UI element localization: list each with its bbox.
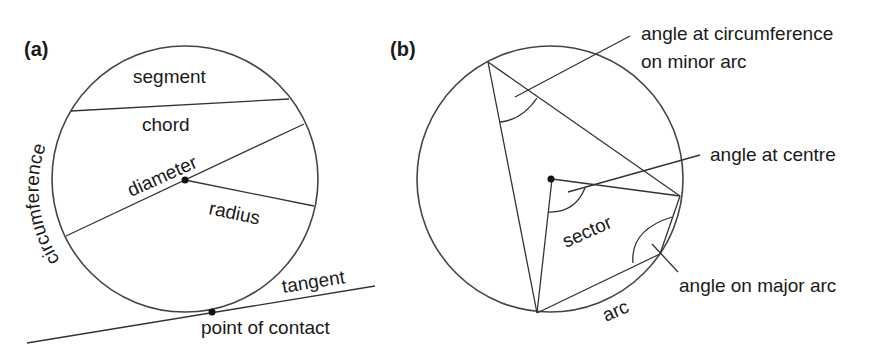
panel-a: (a) segment chord diameter radius circum… [21, 38, 375, 343]
contact-point [209, 309, 216, 316]
radius-line [185, 180, 314, 206]
angle-major-arc-label: angle on major arc [679, 275, 836, 296]
segment-label: segment [133, 66, 207, 87]
chord-d-right [660, 196, 680, 254]
angle-arc-circumference [500, 98, 537, 122]
centre-point-b [548, 176, 555, 183]
radius-to-bottom [537, 179, 552, 313]
sector-label: sector [559, 211, 615, 252]
chord-bottom-d [537, 254, 660, 313]
diameter-label: diameter [124, 151, 201, 201]
circumference-label: circumference [21, 141, 63, 269]
angle-at-centre-label: angle at centre [710, 144, 836, 165]
chord-label: chord [142, 114, 190, 135]
angle-circumference-label-2: on minor arc [641, 51, 747, 72]
circle-terms-diagram: (a) segment chord diameter radius circum… [0, 0, 876, 356]
panel-b: (b) angle at circumference on minor arc … [390, 23, 836, 326]
radius-label: radius [207, 197, 262, 228]
leader-major-arc [652, 244, 678, 272]
chord-top-right [488, 62, 680, 196]
leader-circumference [515, 36, 630, 97]
angle-arc-major [633, 217, 672, 263]
angle-circumference-label-1: angle at circumference [641, 23, 833, 44]
angle-arc-centre [548, 188, 585, 212]
panel-a-label: (a) [24, 38, 48, 60]
leader-centre [568, 155, 700, 192]
panel-b-label: (b) [390, 38, 416, 60]
chord-top-bottom [488, 62, 537, 313]
point-of-contact-label: point of contact [201, 317, 331, 338]
chord-line [71, 99, 289, 111]
radius-to-right [552, 179, 680, 196]
